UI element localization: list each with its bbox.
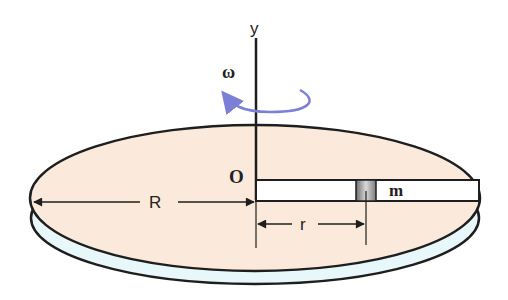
rotation-arrow-icon <box>224 90 310 112</box>
radius-R-label: R <box>149 193 161 212</box>
mass-radius-r-label: r <box>300 215 306 234</box>
origin-label: O <box>229 166 244 187</box>
rotating-disc-diagram: y ω m O R r <box>0 0 508 300</box>
omega-label: ω <box>222 62 235 82</box>
mass-label: m <box>389 181 403 200</box>
y-axis-label: y <box>250 19 259 38</box>
